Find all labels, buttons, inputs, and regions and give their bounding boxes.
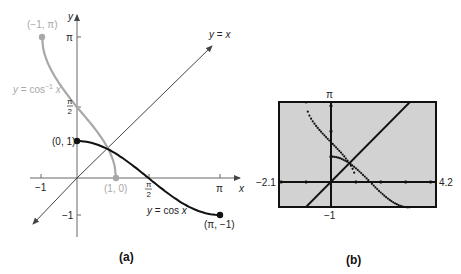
x-tick-label-half-pi-num: π: [146, 180, 152, 189]
label-point-0-1: (0, 1): [52, 136, 75, 147]
line-y-equals-x: [77, 46, 212, 178]
screen-label-ymax: π: [326, 89, 333, 100]
label-point-1-0: (1, 0): [104, 183, 127, 194]
y-tick-label-neg1: −1: [62, 210, 74, 221]
caption-a: (a): [119, 250, 134, 264]
label-line-y-equals-x: y = x: [208, 29, 231, 40]
x-tick-label-neg1: −1: [35, 182, 47, 193]
label-curve-cos: y = cos x: [146, 205, 188, 216]
point-neg1-pi: [39, 34, 45, 40]
screen-label-xmin: −2.1: [256, 177, 276, 188]
panel-b: π −2.1 4.2 −1 (b): [256, 89, 453, 267]
label-point-pi-neg1: (π, −1): [204, 219, 235, 230]
y-tick-label-half-pi-den: 2: [68, 107, 73, 116]
label-curve-arccos-sup: −1: [45, 83, 53, 90]
figure: y x π π 2 −1 −1 π 2 π (−1, π) (0, 1) (1,…: [0, 0, 461, 274]
y-axis-label: y: [67, 11, 74, 22]
label-curve-arccos: y = cos−1 x: [12, 83, 62, 95]
x-axis-label: x: [238, 183, 245, 194]
y-tick-label-pi: π: [66, 32, 73, 43]
point-pi-neg1: [217, 212, 223, 218]
screen-label-xmax: 4.2: [439, 177, 453, 188]
caption-b: (b): [346, 253, 361, 267]
x-tick-label-pi: π: [216, 183, 223, 194]
screen-label-ymin: −1: [324, 210, 336, 221]
x-tick-label-half-pi-den: 2: [147, 190, 152, 199]
y-tick-label-half-pi-num: π: [67, 97, 73, 106]
panel-a: y x π π 2 −1 −1 π 2 π (−1, π) (0, 1) (1,…: [12, 11, 245, 264]
point-1-0: [113, 175, 119, 181]
label-point-neg1-pi: (−1, π): [27, 19, 58, 30]
